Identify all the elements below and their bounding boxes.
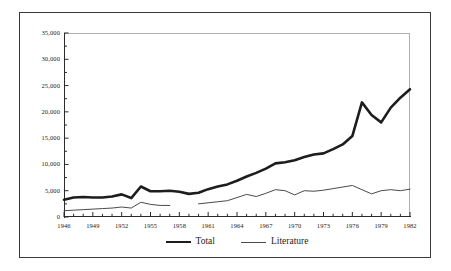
x-tick-label: 1970 (280, 222, 310, 229)
y-tick-label: 25,000 (22, 82, 60, 89)
x-tick-label: 1967 (251, 222, 281, 229)
y-tick-label: 30,000 (22, 55, 60, 62)
chart-plot-svg (0, 0, 451, 271)
y-axis-ticks (64, 33, 69, 217)
y-tick-label: 15,000 (22, 134, 60, 141)
y-tick-label: 35,000 (22, 29, 60, 36)
x-tick-label: 1958 (164, 222, 194, 229)
series-line-total (64, 89, 410, 199)
legend-entry-literature: Literature (241, 237, 308, 247)
x-tick-label: 1952 (107, 222, 137, 229)
x-tick-label: 1964 (222, 222, 252, 229)
series-line-literature (64, 185, 410, 210)
x-tick-label: 1955 (136, 222, 166, 229)
x-tick-label: 1949 (78, 222, 108, 229)
x-axis-ticks (64, 212, 410, 217)
y-tick-label: 5,000 (22, 187, 60, 194)
x-tick-label: 1979 (366, 222, 396, 229)
y-tick-label: 0 (22, 213, 60, 220)
legend-entry-total: Total (166, 237, 215, 247)
x-tick-label: 1973 (309, 222, 339, 229)
x-tick-label: 1961 (193, 222, 223, 229)
chart-legend: Total Literature (64, 234, 410, 250)
legend-label-literature: Literature (271, 237, 308, 247)
chart-figure: 05,00010,00015,00020,00025,00030,00035,0… (0, 0, 451, 271)
y-tick-label: 10,000 (22, 160, 60, 167)
y-tick-label: 20,000 (22, 108, 60, 115)
legend-swatch-literature-icon (241, 242, 266, 243)
legend-label-total: Total (196, 237, 215, 247)
x-tick-label: 1946 (49, 222, 79, 229)
legend-swatch-total-icon (166, 241, 191, 244)
x-tick-label: 1976 (337, 222, 367, 229)
x-tick-label: 1982 (395, 222, 425, 229)
